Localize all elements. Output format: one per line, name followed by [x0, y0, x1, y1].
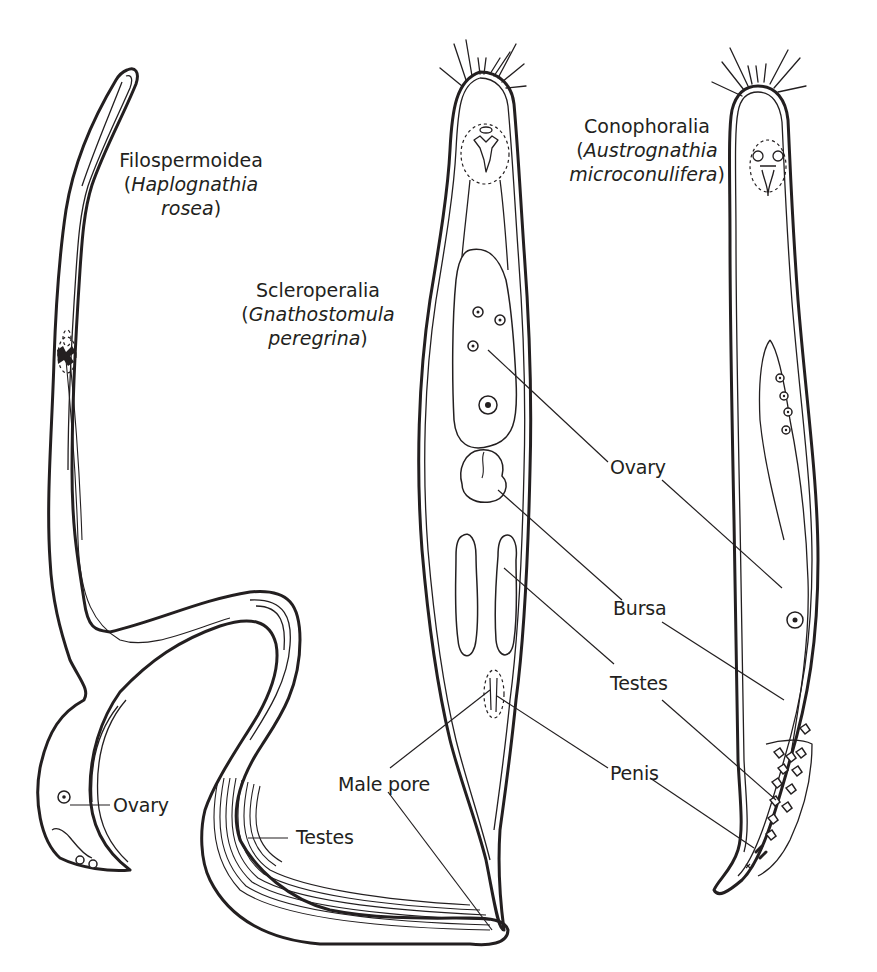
species-label-filospermoidea: Filospermoidea (Haplognathia rosea)	[116, 148, 266, 220]
label-ovary-center: Ovary	[610, 456, 666, 478]
scleroperalia-cilia	[440, 40, 526, 88]
species-label-scleroperalia: Scleroperalia (Gnathostomula peregrina)	[238, 278, 398, 350]
filospermoidea-testes	[214, 778, 490, 930]
gnathostomulid-illustration: .o { fill: none; stroke: #231f20; stroke…	[0, 0, 877, 972]
label-ovary-left: Ovary	[113, 794, 169, 816]
species-name: (Austrognathia	[566, 138, 728, 162]
species-name-cont: rosea)	[116, 196, 266, 220]
species-label-conophoralia: Conophoralia (Austrognathia microconulif…	[566, 114, 728, 186]
species-name-cont: microconulifera)	[566, 162, 728, 186]
leader-lines	[70, 350, 784, 930]
species-name: (Gnathostomula	[238, 302, 398, 326]
group-name: Conophoralia	[566, 114, 728, 138]
scleroperalia-worm	[419, 40, 531, 930]
label-testes-left: Testes	[296, 826, 354, 848]
species-name: (Haplognathia	[116, 172, 266, 196]
label-male-pore: Male pore	[338, 773, 430, 795]
label-bursa: Bursa	[613, 597, 666, 619]
filospermoidea-worm	[38, 69, 508, 945]
species-name-cont: peregrina)	[238, 326, 398, 350]
label-penis: Penis	[610, 762, 659, 784]
label-testes-center: Testes	[610, 672, 668, 694]
group-name: Scleroperalia	[238, 278, 398, 302]
group-name: Filospermoidea	[116, 148, 266, 172]
conophoralia-cilia	[712, 48, 806, 96]
